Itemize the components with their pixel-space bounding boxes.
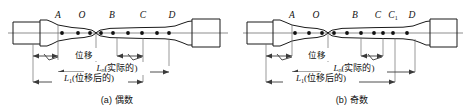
arrowhead-left	[33, 80, 39, 85]
gauge-dot	[381, 31, 385, 35]
dimension-note-L1: (位移后的)	[72, 72, 114, 83]
mark-label-A: A	[288, 10, 295, 20]
mark-label-group-a: A O B C D	[54, 10, 175, 20]
mark-label-B: B	[352, 10, 358, 20]
mark-subscript-C1: 1	[395, 15, 398, 21]
gauge-dot	[345, 31, 349, 35]
specimen-diagram-a: A O B C D 位移	[0, 0, 234, 88]
gauge-dot	[359, 31, 363, 35]
figure-panel-b: A O B C C1 D 位移	[235, 0, 469, 108]
dimension-note-L1: (位移后的)	[304, 72, 346, 83]
mark-label-C: C	[140, 10, 147, 20]
figure-root: A O B C D 位移	[0, 0, 469, 108]
gauge-dot	[60, 31, 64, 35]
arrowhead-left	[33, 54, 39, 59]
mark-label-C1: C1	[388, 10, 397, 21]
arrowhead-left	[117, 54, 123, 59]
panel-caption-a: (a) 偶数	[0, 93, 234, 106]
mark-label-O: O	[79, 10, 86, 20]
dimension-displacement-b: 位移	[266, 48, 383, 61]
panel-caption-b: (b) 奇数	[235, 93, 469, 106]
dimension-displacement-a: 位移	[33, 48, 143, 61]
gauge-dot	[372, 31, 376, 35]
gauge-dot	[76, 31, 80, 35]
gauge-dot	[126, 31, 130, 35]
mark-label-D: D	[408, 10, 416, 20]
arrowhead-right	[163, 70, 169, 75]
specimen-diagram-b: A O B C C1 D 位移	[235, 0, 469, 88]
arrowhead-right	[389, 80, 395, 85]
gauge-dot	[111, 31, 115, 35]
mark-label-B: B	[109, 10, 115, 20]
dimension-label-displacement: 位移	[308, 50, 326, 60]
arrowhead-left	[266, 80, 272, 85]
mark-label-C: C	[375, 10, 382, 20]
gauge-dot	[293, 31, 297, 35]
gauge-dot	[99, 31, 103, 35]
gauge-dot	[167, 31, 171, 35]
gauge-dot	[320, 31, 324, 35]
mark-label-O: O	[313, 10, 320, 20]
mark-label-group-b: A O B C C1 D	[288, 10, 415, 21]
gauge-dot	[332, 31, 336, 35]
mark-label-A: A	[54, 10, 61, 20]
arrowhead-left	[266, 54, 272, 59]
arrowhead-left	[361, 54, 367, 59]
figure-panel-a: A O B C D 位移	[0, 0, 234, 108]
arrowhead-right	[409, 70, 415, 75]
gauge-dot	[405, 31, 409, 35]
gauge-dot	[307, 31, 311, 35]
gauge-dot	[140, 31, 144, 35]
arrowhead-right	[137, 80, 143, 85]
gauge-dot	[391, 31, 395, 35]
mark-label-D: D	[168, 10, 176, 20]
dimension-L1-a: L1(位移后的)	[33, 72, 143, 86]
gauge-dot	[155, 31, 159, 35]
gauge-dot	[88, 31, 92, 35]
dimension-note-L0: (实际的)	[342, 62, 375, 73]
dimension-note-L0: (实际的)	[105, 62, 138, 73]
dimension-label-displacement: 位移	[75, 50, 93, 60]
